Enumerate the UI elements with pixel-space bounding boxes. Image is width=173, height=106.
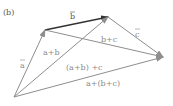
vector-addition-diagram: (b) b c b+c a+b a (a+b) +c a+(b+c) [0,0,173,106]
vector-a [14,30,45,97]
label-b-plus-c: b+c [101,35,118,44]
label-b: b [70,12,75,21]
label-a: a [20,61,25,70]
label-a-plus-b: a+b [43,48,60,57]
label-c: c [135,30,140,39]
vector-b [45,17,108,30]
panel-label: (b) [3,8,14,17]
label-ab-plus-c: (a+b) +c [66,63,103,72]
label-a-plus-bc: a+(b+c) [86,79,120,88]
